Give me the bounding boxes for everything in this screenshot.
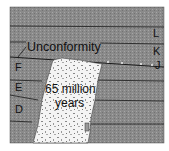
layer-label-k: K: [153, 45, 161, 57]
layer-label-f: F: [15, 61, 22, 73]
layer-label-l: L: [153, 27, 159, 39]
unconformity-label: Unconformity: [27, 40, 101, 54]
layer-label-d: D: [15, 103, 23, 115]
small-inclusion: [85, 123, 89, 131]
geologic-cross-section: Unconformity L K J F E D 65 million year…: [0, 0, 169, 151]
layer-label-j: J: [155, 59, 161, 71]
intrusion-age-line1: 65 million: [45, 82, 96, 96]
intrusion-age-line2: years: [55, 96, 84, 110]
layer-label-e: E: [15, 81, 22, 93]
